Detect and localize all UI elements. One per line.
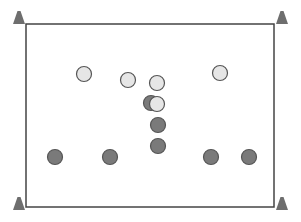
cone-bottom-right-icon bbox=[276, 197, 288, 210]
overlapping-players bbox=[144, 96, 165, 112]
dark-1-player-marker bbox=[151, 118, 166, 133]
dark-5-player-marker bbox=[204, 150, 219, 165]
dark-2-player-marker bbox=[151, 139, 166, 154]
drill-diagram bbox=[0, 0, 301, 222]
dark-6-player-marker bbox=[242, 150, 257, 165]
cone-top-left-icon bbox=[13, 11, 25, 24]
light-4-player-marker bbox=[213, 66, 228, 81]
cone-top-right-icon bbox=[276, 11, 288, 24]
light-team-players bbox=[77, 66, 228, 91]
light-2-player-marker bbox=[121, 73, 136, 88]
dark-team-players bbox=[48, 118, 257, 165]
light-3-player-marker bbox=[150, 76, 165, 91]
dark-4-player-marker bbox=[103, 150, 118, 165]
light-1-player-marker bbox=[77, 67, 92, 82]
cone-bottom-left-icon bbox=[13, 197, 25, 210]
field-boundary bbox=[26, 24, 274, 207]
overlap-light-player-marker bbox=[150, 97, 165, 112]
dark-3-player-marker bbox=[48, 150, 63, 165]
diagram-canvas bbox=[0, 0, 301, 222]
